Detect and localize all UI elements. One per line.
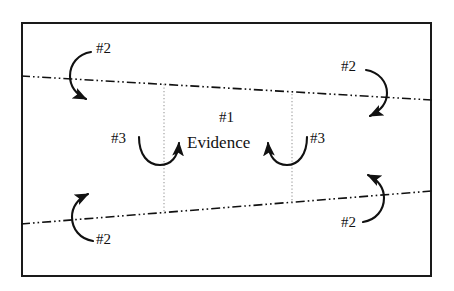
diagram-canvas: #1 Evidence #2 #2 #3 #3 #2 #2 (0, 0, 454, 291)
evidence-label: Evidence (187, 134, 250, 151)
label-bottom-right-number: #2 (341, 215, 356, 230)
label-top-right-number: #2 (341, 59, 356, 74)
label-center-right-number: #3 (310, 131, 325, 146)
center-heading-label: #1 (219, 110, 234, 125)
label-top-left-number: #2 (96, 41, 111, 56)
label-bottom-left-number: #2 (96, 232, 111, 247)
label-center-left-number: #3 (111, 131, 126, 146)
